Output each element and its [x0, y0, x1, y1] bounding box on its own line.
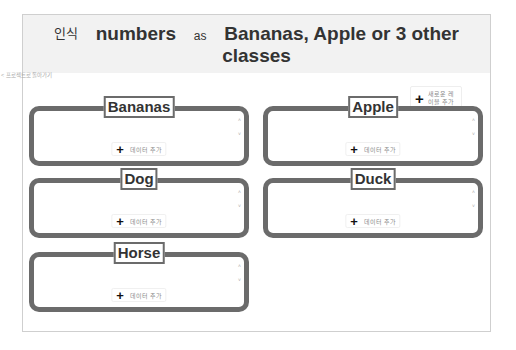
label-card-title: Bananas: [104, 96, 175, 118]
scroll-down-icon[interactable]: ˅: [238, 279, 241, 282]
plus-icon: +: [116, 215, 124, 228]
page-title-line1: 인식 numbers as Bananas, Apple or 3 other: [23, 23, 490, 45]
scroll-down-icon[interactable]: ˅: [472, 133, 475, 136]
plus-icon: +: [415, 91, 424, 106]
title-classes: Bananas, Apple or 3 other: [224, 23, 459, 44]
scroll-up-icon[interactable]: ˄: [238, 265, 241, 268]
label-card-title: Dog: [120, 168, 157, 190]
scroll-up-icon[interactable]: ˄: [472, 191, 475, 194]
label-card-title: Apple: [348, 96, 398, 118]
add-new-label-text: 새로운 레이블 추가: [428, 90, 454, 106]
add-data-button[interactable]: +데이터 추가: [345, 214, 400, 228]
scroll-up-icon[interactable]: ˄: [472, 119, 475, 122]
page-title-line2: classes: [23, 45, 490, 67]
scroll-down-icon[interactable]: ˅: [238, 205, 241, 208]
plus-icon: +: [116, 143, 124, 156]
label-card-bananas: Bananas˄˅+데이터 추가: [29, 106, 249, 166]
plus-icon: +: [116, 289, 124, 302]
back-to-project-link[interactable]: < 프로젝트로 돌아가기: [1, 71, 52, 79]
page-header: 인식 numbers as Bananas, Apple or 3 other …: [23, 15, 490, 73]
scroll-down-icon[interactable]: ˅: [472, 205, 475, 208]
plus-icon: +: [350, 215, 358, 228]
add-data-button[interactable]: +데이터 추가: [111, 142, 166, 156]
add-data-button[interactable]: +데이터 추가: [345, 142, 400, 156]
label-card-title: Horse: [114, 242, 165, 264]
add-data-text: 데이터 추가: [364, 145, 396, 154]
add-data-text: 데이터 추가: [130, 291, 162, 300]
scroll-up-icon[interactable]: ˄: [238, 119, 241, 122]
label-card-apple: Apple˄˅+데이터 추가: [263, 106, 483, 166]
scroll-down-icon[interactable]: ˅: [238, 133, 241, 136]
label-card-horse: Horse˄˅+데이터 추가: [29, 252, 249, 312]
add-data-button[interactable]: +데이터 추가: [111, 288, 166, 302]
add-data-button[interactable]: +데이터 추가: [111, 214, 166, 228]
title-subject: numbers: [96, 23, 176, 44]
add-data-text: 데이터 추가: [130, 145, 162, 154]
label-card-duck: Duck˄˅+데이터 추가: [263, 178, 483, 238]
main-frame: 인식 numbers as Bananas, Apple or 3 other …: [22, 14, 491, 332]
title-prefix: 인식: [54, 26, 78, 41]
scroll-up-icon[interactable]: ˄: [238, 191, 241, 194]
label-card-title: Duck: [351, 168, 396, 190]
plus-icon: +: [350, 143, 358, 156]
add-data-text: 데이터 추가: [130, 217, 162, 226]
add-data-text: 데이터 추가: [364, 217, 396, 226]
title-connector: as: [194, 29, 207, 43]
label-card-dog: Dog˄˅+데이터 추가: [29, 178, 249, 238]
